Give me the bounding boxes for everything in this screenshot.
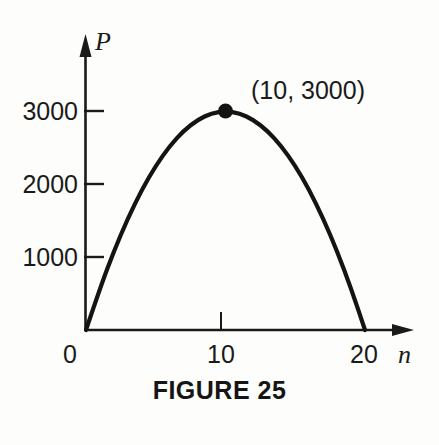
- y-tick-label-3000: 3000: [0, 97, 78, 126]
- figure-panel: 3000 2000 1000 0 10 20 P n (10, 3000) FI…: [0, 0, 439, 445]
- vertex-point-marker: [218, 104, 233, 119]
- x-axis-name-label: n: [398, 340, 411, 370]
- y-tick-label-2000: 2000: [0, 170, 78, 199]
- x-tick-label-0: 0: [50, 340, 90, 369]
- parabola-curve: [86, 112, 365, 330]
- x-tick-label-10: 10: [201, 340, 241, 369]
- y-axis-name-label: P: [95, 27, 111, 57]
- y-axis-arrowhead: [80, 34, 92, 57]
- vertex-annotation-label: (10, 3000): [251, 76, 365, 105]
- figure-caption: FIGURE 25: [0, 376, 439, 405]
- y-tick-label-1000: 1000: [0, 243, 78, 272]
- x-tick-label-20: 20: [344, 340, 384, 369]
- x-axis-arrowhead: [392, 324, 414, 336]
